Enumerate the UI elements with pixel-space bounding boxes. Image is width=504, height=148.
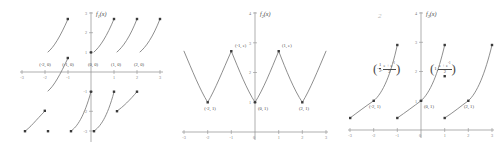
axis-function-label: f1(x) xyxy=(96,11,106,19)
y-tick-label: 4 xyxy=(249,11,252,16)
x-tick-label: 2 xyxy=(136,75,138,80)
x-tick-label: -2 xyxy=(206,135,210,140)
x-tick-label: -1 xyxy=(396,133,400,138)
chart-panel-2: -3 -2 -1 0 1 2 3 1 2 3 4 xyxy=(168,0,336,148)
x-tick-label: 2 xyxy=(467,133,469,138)
y-tick-labels: 1 2 3 4 xyxy=(249,11,252,105)
x-tick-labels: -3 -2 -1 0 1 2 3 xyxy=(348,133,493,138)
x-tick-label: -3 xyxy=(348,133,352,138)
y-tick-label: 1 xyxy=(415,99,417,104)
point-label: (-1, e) xyxy=(235,43,247,49)
x-tick-label: -1 xyxy=(66,75,70,80)
close-paren: ) xyxy=(452,61,456,76)
y-tick-label: 1 xyxy=(85,50,87,55)
point-annotations: (-2, 0) (-1, 0) (0, 0) (1, 0) (2, 0) xyxy=(39,62,144,68)
chart-panel-1: -3 -2 -1 1 2 3 3 2 1 -1 -2 xyxy=(0,0,168,148)
y-tick-label: 2 xyxy=(415,69,417,74)
point-label: (0, 1) xyxy=(258,106,268,112)
data-point xyxy=(396,117,398,119)
y-tick-label: 3 xyxy=(415,40,417,45)
chart-svg-2: -3 -2 -1 0 1 2 3 1 2 3 4 xyxy=(168,0,336,148)
data-point xyxy=(207,101,209,103)
data-point xyxy=(230,50,232,52)
data-point xyxy=(136,18,138,20)
scan-artifact: 2 xyxy=(378,12,382,20)
x-tick-label: 0 xyxy=(419,133,421,138)
data-point xyxy=(254,101,256,103)
exponent: -1 xyxy=(393,61,396,65)
data-point xyxy=(349,117,351,119)
x-tick-label: -3 xyxy=(182,135,186,140)
point-label: (-2, 1) xyxy=(204,106,216,112)
data-point xyxy=(136,91,138,93)
data-point xyxy=(420,100,422,102)
data-point xyxy=(159,18,161,20)
x-tick-label: 3 xyxy=(491,133,493,138)
three-panel-figure: -3 -2 -1 1 2 3 3 2 1 -1 -2 xyxy=(0,0,504,148)
x-tick-labels: -3 -2 -1 1 2 3 xyxy=(20,75,161,80)
data-point xyxy=(467,100,469,102)
point-label: (-2, 0) xyxy=(39,62,51,68)
point-label: (2, 1) xyxy=(299,106,309,112)
point-annotations: (-2, 1) (0, 1) (2, 1) xyxy=(369,104,474,110)
point-label: (1, 0) xyxy=(111,62,121,68)
y-tick-label: 4 xyxy=(415,11,418,16)
x-tick-labels: -3 -2 -1 0 1 2 3 xyxy=(182,135,327,140)
data-point xyxy=(24,130,26,132)
exponent: -1 xyxy=(448,61,451,65)
data-point xyxy=(67,18,69,20)
data-point xyxy=(491,44,493,46)
point-label: (0, 1) xyxy=(424,104,434,110)
chart-panel-3: -3 -2 -1 0 1 2 3 1 2 3 4 xyxy=(336,0,504,148)
chart-svg-3: -3 -2 -1 0 1 2 3 1 2 3 4 xyxy=(336,0,504,148)
data-point xyxy=(373,100,375,102)
data-point xyxy=(90,91,92,93)
chart-svg-1: -3 -2 -1 1 2 3 3 2 1 -1 -2 xyxy=(0,0,168,148)
y-tick-label: 2 xyxy=(249,70,251,75)
data-point xyxy=(301,101,303,103)
data-point xyxy=(90,51,92,53)
close-paren: ) xyxy=(396,61,400,76)
y-tick-label: 1 xyxy=(249,100,251,105)
data-point xyxy=(93,130,95,132)
x-tick-label: -1 xyxy=(230,135,234,140)
point-label: (1, e) xyxy=(282,43,292,49)
x-tick-label: 1 xyxy=(444,133,446,138)
y-fraction: e + e-12 xyxy=(438,62,451,74)
data-point xyxy=(47,130,49,132)
y-tick-label: -1 xyxy=(84,89,88,94)
y-tick-label: 2 xyxy=(85,30,87,35)
point-label: (-2, 1) xyxy=(369,104,381,110)
x-tick-label: 1 xyxy=(278,135,280,140)
y-tick-label: 3 xyxy=(85,11,87,16)
point-label: (0, 0) xyxy=(88,62,98,68)
fraction-point-label-2: (1,e + e-12) xyxy=(430,62,456,75)
point-label: (2, 0) xyxy=(134,62,144,68)
point-label: (2, 1) xyxy=(464,104,474,110)
x-tick-label: -3 xyxy=(20,75,24,80)
fraction-point-label-1: (-12,e + e-12) xyxy=(373,62,400,75)
x-tick-label: -2 xyxy=(43,75,47,80)
data-point xyxy=(116,110,118,112)
data-point xyxy=(278,50,280,52)
x-tick-label: 3 xyxy=(159,75,161,80)
axis-function-label: f2(x) xyxy=(260,11,270,19)
x-tick-label: 1 xyxy=(113,75,115,80)
x-tick-label: 2 xyxy=(301,135,303,140)
data-point xyxy=(444,117,446,119)
data-point xyxy=(396,44,398,46)
x-tick-label: 3 xyxy=(325,135,327,140)
y-tick-label: 3 xyxy=(249,41,251,46)
data-point xyxy=(444,75,446,77)
data-point xyxy=(70,130,72,132)
x-tick-label: -2 xyxy=(372,133,376,138)
axis-function-label: f3(x) xyxy=(426,11,436,19)
data-point xyxy=(444,44,446,46)
y-tick-label: -3 xyxy=(84,129,88,134)
data-point xyxy=(44,110,46,112)
data-point xyxy=(67,57,69,59)
y-fraction: e + e-12 xyxy=(383,62,396,74)
y-tick-labels: 1 2 3 4 xyxy=(415,11,418,104)
data-point xyxy=(113,18,115,20)
data-point xyxy=(113,91,115,93)
